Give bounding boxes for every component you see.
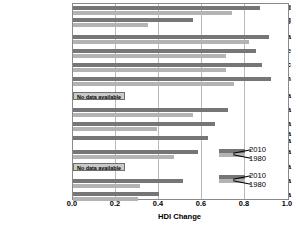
x-axis: 0.0 0.2 0.4 0.6 0.8 1.0: [72, 199, 287, 211]
bar-east-asia-2010: [73, 122, 215, 126]
gridline-0.8: [244, 4, 245, 199]
xtick-0.6: 0.6: [196, 199, 206, 208]
xtick-0.0: 0.0: [67, 199, 77, 208]
bar-south-pacific-2010: [73, 63, 262, 67]
x-axis-title: HDI Change: [72, 212, 287, 221]
bar-north-america-2010: [73, 35, 269, 39]
bar-developing-2010: [73, 18, 193, 22]
bar-south-asia-2010: [73, 179, 183, 183]
bar-europe-1980: [73, 54, 226, 58]
xtick-1.0: 1.0: [282, 199, 292, 208]
legend-label-1980-upper: 1980: [249, 155, 266, 163]
bar-developing-1980: [73, 23, 148, 27]
bar-north-america-1980: [73, 40, 249, 44]
gridline-0.6: [201, 4, 202, 199]
bar-southeast-asia-2010: [73, 150, 198, 154]
bar-latin-america-1980: [73, 113, 193, 117]
hdi-change-bar-chart: Developed Developing North America Europ…: [0, 0, 295, 232]
bar-southeast-asia-1980: [73, 155, 174, 159]
bar-developed-2010: [73, 6, 260, 10]
bar-south-asia-1980: [73, 184, 140, 188]
xtick-0.8: 0.8: [239, 199, 249, 208]
bar-east-asia-1980: [73, 127, 157, 131]
bar-southwest-asia-2010: [73, 136, 208, 140]
bar-latin-america-2010: [73, 108, 228, 112]
bar-japan-1980: [73, 82, 234, 86]
legend-label-2010-upper: 2010: [249, 146, 266, 154]
plot-area: No data available No data available 2010…: [72, 3, 289, 200]
no-data-badge-central-asia: No data available: [73, 163, 125, 171]
legend-label-1980-lower: 1980: [249, 181, 266, 189]
bar-europe-2010: [73, 49, 256, 53]
bar-sub-saharan-africa-2010: [73, 192, 159, 196]
legend-label-2010-lower: 2010: [249, 172, 266, 180]
xtick-0.4: 0.4: [153, 199, 163, 208]
no-data-badge-russia: No data available: [73, 92, 125, 100]
gridline-0.4: [158, 4, 159, 199]
bar-developed-1980: [73, 11, 232, 15]
xtick-0.2: 0.2: [110, 199, 120, 208]
bar-south-pacific-1980: [73, 68, 226, 72]
bar-japan-2010: [73, 77, 271, 81]
